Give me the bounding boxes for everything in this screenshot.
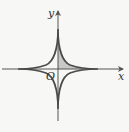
- x-axis-label: x: [118, 70, 125, 83]
- y-axis-label: y: [47, 7, 55, 20]
- origin-label: O: [46, 70, 55, 83]
- astroid-diagram: y x O: [0, 0, 129, 132]
- shaded-region: [58, 29, 98, 69]
